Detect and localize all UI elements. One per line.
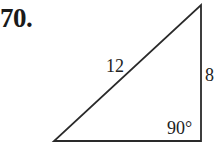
right-triangle-figure: 12 8 90° — [0, 0, 215, 162]
hypotenuse-label: 12 — [106, 56, 124, 76]
vertical-side-label: 8 — [205, 65, 214, 85]
right-angle-label: 90° — [167, 118, 192, 138]
